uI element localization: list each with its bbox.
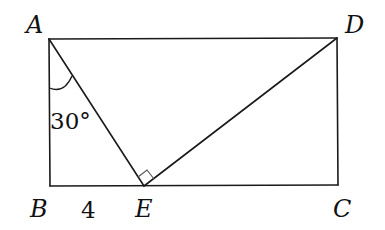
right-angle-marker [138, 170, 154, 179]
angle-label-30: 30° [50, 108, 91, 134]
length-label-be: 4 [81, 197, 96, 223]
vertex-label-e: E [134, 195, 153, 223]
segment-dc [337, 38, 338, 185]
vertex-label-d: D [344, 11, 364, 39]
segment-de [144, 38, 337, 186]
geometry-diagram: A B E C D 30° 4 [0, 0, 385, 230]
segment-ad [49, 38, 337, 39]
angle-arc-bae [50, 76, 73, 90]
vertex-label-c: C [333, 195, 351, 223]
segment-bc [50, 185, 338, 186]
vertex-label-b: B [29, 195, 48, 223]
vertex-label-a: A [24, 11, 43, 39]
